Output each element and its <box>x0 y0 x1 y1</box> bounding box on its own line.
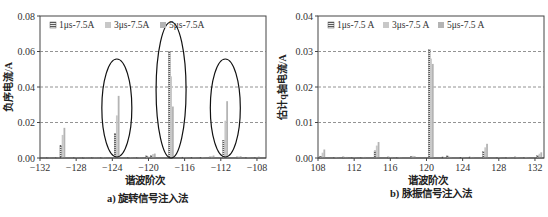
x-tick-label: −108 <box>247 162 268 173</box>
x-tick-label: 116 <box>383 162 398 173</box>
bar <box>322 153 324 158</box>
bar <box>170 76 172 158</box>
legend-label: 5μs-7.5 A <box>447 20 484 30</box>
x-tick-label: −124 <box>102 162 123 173</box>
legend-label: 1μs-7.5 A <box>337 20 374 30</box>
x-tick-label: 124 <box>455 162 470 173</box>
x-tick-label: −128 <box>66 162 87 173</box>
chart-left-panel: 0.000.020.040.060.08−132−128−124−120−116… <box>0 0 274 185</box>
y-tick-label: 0.08 <box>18 11 36 22</box>
chart-left-caption: a) 旋转信号注入法 <box>107 190 188 205</box>
legend-swatch <box>50 22 56 28</box>
bar <box>116 115 118 158</box>
bar <box>224 121 226 158</box>
chart-left-xlabel: 谐波阶次 <box>125 172 165 187</box>
bar <box>154 154 156 158</box>
chart-left: 0.000.020.040.060.08−132−128−124−120−116… <box>0 0 274 185</box>
chart-right: 0.000.010.020.030.0410811211612012412813… <box>274 0 548 185</box>
y-axis-label: 负序电流/A <box>2 61 14 112</box>
legend-label: 3μs-7.5A <box>114 20 150 30</box>
bar <box>483 152 485 158</box>
bar <box>118 96 120 158</box>
y-tick-label: 0.02 <box>296 82 314 93</box>
x-tick-label: 108 <box>311 162 326 173</box>
bar <box>168 52 170 159</box>
x-tick-label: 132 <box>527 162 542 173</box>
legend-label: 1μs-7.5A <box>59 20 95 30</box>
bar <box>60 146 62 158</box>
bar <box>223 140 225 158</box>
y-axis-label: 估计q轴电流/A <box>276 53 288 120</box>
bar <box>430 59 432 158</box>
bar <box>114 133 116 158</box>
bar <box>152 154 154 158</box>
chart-right-caption: b) 脉振信号注入法 <box>390 185 472 200</box>
x-tick-label: −112 <box>211 162 231 173</box>
x-tick-label: 112 <box>347 162 362 173</box>
bar <box>62 135 64 158</box>
bar <box>484 147 486 158</box>
legend-swatch <box>328 22 334 28</box>
bar <box>539 154 541 158</box>
bar <box>432 64 434 158</box>
y-tick-label: 0.03 <box>296 46 314 57</box>
y-tick-label: 0.04 <box>296 11 314 22</box>
bar <box>374 151 376 158</box>
x-tick-label: −132 <box>30 162 51 173</box>
x-tick-label: −116 <box>174 162 194 173</box>
y-tick-label: 0.06 <box>18 46 36 57</box>
bar <box>226 101 228 158</box>
bar <box>378 142 380 158</box>
y-tick-label: 0.02 <box>18 117 36 128</box>
y-tick-label: 0.04 <box>18 82 36 93</box>
bar <box>172 107 174 158</box>
legend-swatch <box>438 22 444 28</box>
bar <box>428 50 430 158</box>
y-tick-label: 0.01 <box>296 117 314 128</box>
bar <box>486 144 488 158</box>
bar <box>540 152 542 158</box>
bar <box>376 146 378 158</box>
legend-swatch <box>105 22 111 28</box>
legend-label: 3μs-7.5 A <box>392 20 429 30</box>
bar <box>323 149 325 158</box>
legend-label: 5μs-7.5A <box>169 20 205 30</box>
bar <box>64 128 66 158</box>
chart-right-panel: 0.000.010.020.030.0410811211612012412813… <box>274 0 548 185</box>
legend-swatch <box>160 22 166 28</box>
x-tick-label: 128 <box>491 162 506 173</box>
legend-swatch <box>383 22 389 28</box>
